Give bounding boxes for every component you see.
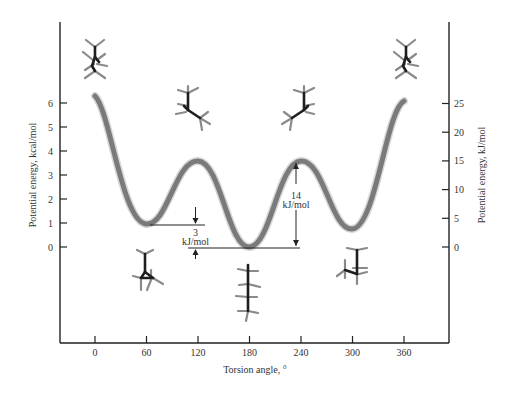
y-left-tick-label: 6 xyxy=(48,98,53,109)
y-right-axis-title: Potential energy, kJ/mol xyxy=(476,126,487,223)
molecule-0-eclipsed xyxy=(83,40,107,78)
y-right-tick-label: 0 xyxy=(454,242,459,253)
x-tick-label: 120 xyxy=(191,347,206,358)
x-tick-label: 240 xyxy=(294,347,309,358)
y-right-tick-label: 10 xyxy=(454,184,464,195)
y-left-tick-label: 2 xyxy=(48,194,53,205)
annotation-3-unit: kJ/mol xyxy=(182,236,209,247)
right-y-ticks: 0 5 10 15 20 25 xyxy=(442,98,464,253)
x-tick-label: 360 xyxy=(397,347,412,358)
x-tick-label: 300 xyxy=(345,347,360,358)
annotation-14-unit: kJ/mol xyxy=(282,199,309,210)
x-tick-label: 60 xyxy=(142,347,152,358)
x-ticks: 0 60 120 180 240 300 360 xyxy=(93,336,412,358)
molecule-60-gauche xyxy=(133,250,163,290)
molecule-180-anti xyxy=(236,265,260,321)
molecule-120-eclipsed xyxy=(176,86,210,130)
molecule-360-eclipsed xyxy=(394,40,418,78)
y-right-tick-label: 5 xyxy=(454,213,459,224)
y-left-tick-label: 0 xyxy=(48,242,53,253)
y-right-tick-label: 25 xyxy=(454,98,464,109)
left-y-ticks: 0 1 2 3 4 5 6 xyxy=(48,98,67,253)
molecule-300-gauche xyxy=(337,248,367,284)
y-left-axis-title: Potential energy, kcal/mol xyxy=(27,123,38,228)
y-left-tick-label: 4 xyxy=(48,146,53,157)
x-tick-label: 180 xyxy=(242,347,257,358)
y-left-tick-label: 3 xyxy=(48,170,53,181)
y-left-tick-label: 5 xyxy=(48,122,53,133)
y-right-tick-label: 20 xyxy=(454,127,464,138)
x-axis-title: Torsion angle, ° xyxy=(223,364,287,375)
x-tick-label: 0 xyxy=(93,347,98,358)
y-left-tick-label: 1 xyxy=(48,218,53,229)
energy-curve xyxy=(95,96,404,247)
molecule-240-eclipsed xyxy=(282,86,314,130)
y-right-tick-label: 15 xyxy=(454,155,464,166)
torsion-energy-chart: 0 1 2 3 4 5 6 0 5 10 15 20 25 0 60 120 1… xyxy=(0,0,513,396)
